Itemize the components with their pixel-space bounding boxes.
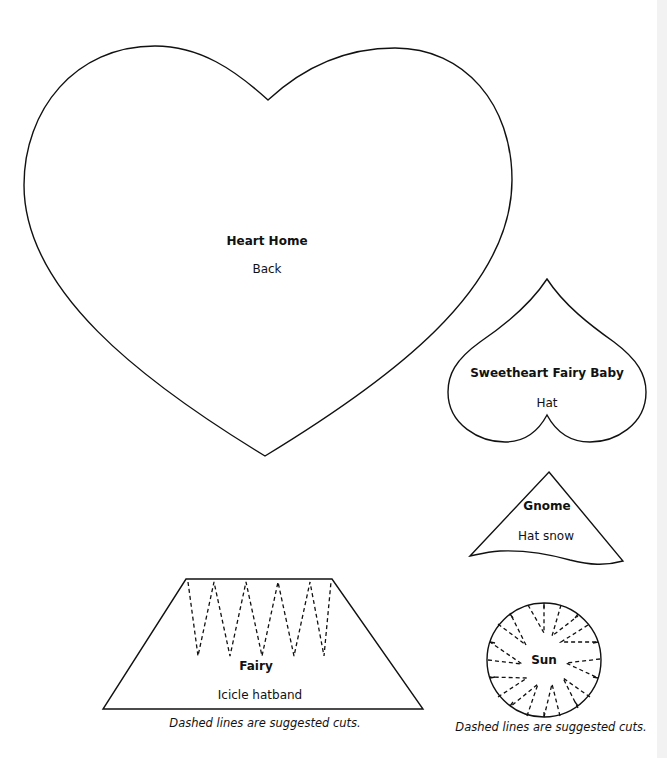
heart-home-subtitle: Back: [252, 262, 281, 276]
fairy-subtitle: Icicle hatband: [218, 688, 302, 702]
gnome-title: Gnome: [523, 499, 570, 513]
fairy-caption: Dashed lines are suggested cuts.: [169, 716, 360, 730]
fairy-baby-hat-title: Sweetheart Fairy Baby: [470, 366, 624, 380]
gnome-subtitle: Hat snow: [518, 529, 574, 543]
heart-home-title: Heart Home: [226, 234, 307, 248]
fairy-baby-hat-outline: [448, 279, 646, 442]
fairy-title: Fairy: [239, 659, 272, 673]
fairy-baby-hat-subtitle: Hat: [536, 396, 557, 410]
sun-caption: Dashed lines are suggested cuts.: [455, 720, 646, 734]
sun-title: Sun: [531, 653, 557, 667]
fairy-hatband-dashed-cuts: [188, 582, 331, 656]
heart-home-outline: [24, 46, 512, 456]
gnome-hat-snow-outline: [470, 472, 623, 564]
